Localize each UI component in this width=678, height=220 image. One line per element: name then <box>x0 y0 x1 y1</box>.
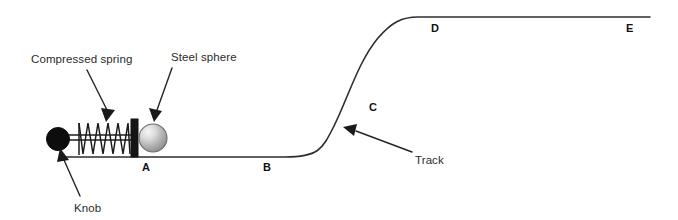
diagram-background <box>0 0 678 220</box>
point-label-b: B <box>263 161 271 173</box>
callout-label-compressed-spring: Compressed spring <box>31 53 132 65</box>
callout-label-knob: Knob <box>74 202 101 214</box>
callout-label-track: Track <box>415 154 444 166</box>
point-label-e: E <box>626 22 633 34</box>
point-label-a: A <box>142 161 150 173</box>
point-label-d: D <box>431 22 439 34</box>
physics-diagram: Compressed spring Steel sphere Knob Trac… <box>0 0 678 220</box>
spring-plate-block <box>131 119 138 157</box>
diagram-canvas: Compressed spring Steel sphere Knob Trac… <box>0 0 678 220</box>
callout-label-steel-sphere: Steel sphere <box>171 51 237 63</box>
point-label-c: C <box>369 101 377 113</box>
steel-sphere-circle <box>139 124 167 152</box>
knob-circle <box>47 128 70 151</box>
